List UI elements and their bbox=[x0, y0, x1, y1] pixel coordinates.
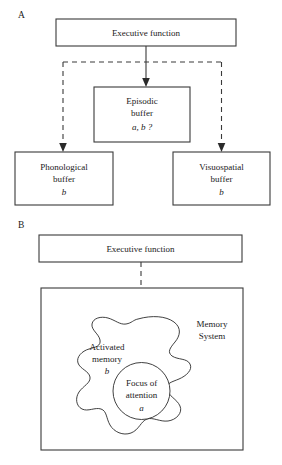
panel-a-episodic-line2: buffer bbox=[131, 108, 153, 118]
panel-a-visuospatial-line3: b bbox=[219, 187, 224, 197]
figure-container: Executive function Episodic buffer a, b … bbox=[0, 0, 282, 465]
connector-executive-to-phonological-arrow bbox=[59, 143, 67, 152]
panel-b-activated-memory-line3: b bbox=[105, 366, 110, 376]
panel-a-group: Executive function Episodic buffer a, b … bbox=[15, 19, 270, 205]
connector-executive-to-episodic-arrow bbox=[142, 78, 150, 87]
panel-a-visuospatial-line2: buffer bbox=[211, 174, 233, 184]
panel-a-phonological-line1: Phonological bbox=[40, 162, 88, 172]
panel-a-episodic-line3: a, b ? bbox=[132, 122, 153, 132]
panel-a-visuospatial-line1: Visuospatial bbox=[199, 162, 244, 172]
panel-a-label: A bbox=[18, 10, 25, 20]
panel-b-focus-line3: a bbox=[139, 403, 144, 413]
panel-a-phonological-line3: b bbox=[62, 187, 67, 197]
panel-a-episodic-line1: Episodic bbox=[126, 96, 158, 106]
panel-b-memory-system-line2: System bbox=[199, 331, 226, 341]
panel-b-activated-memory-line2: memory bbox=[92, 354, 122, 364]
panel-a-executive-label: Executive function bbox=[112, 28, 181, 38]
connector-executive-to-visuospatial-arrow bbox=[218, 143, 226, 152]
panel-b-executive-label: Executive function bbox=[106, 244, 175, 254]
panel-b-label: B bbox=[18, 220, 24, 230]
panel-b-memory-system-line1: Memory bbox=[197, 319, 228, 329]
panel-b-focus-line1: Focus of bbox=[126, 378, 157, 388]
panel-a-phonological-line2: buffer bbox=[53, 174, 75, 184]
panel-b-focus-line2: attention bbox=[126, 390, 158, 400]
panel-b-activated-memory-line1: Activated bbox=[90, 342, 125, 352]
diagram-svg: Executive function Episodic buffer a, b … bbox=[0, 0, 282, 465]
panel-b-group: Executive function Memory System Activat… bbox=[39, 235, 243, 450]
